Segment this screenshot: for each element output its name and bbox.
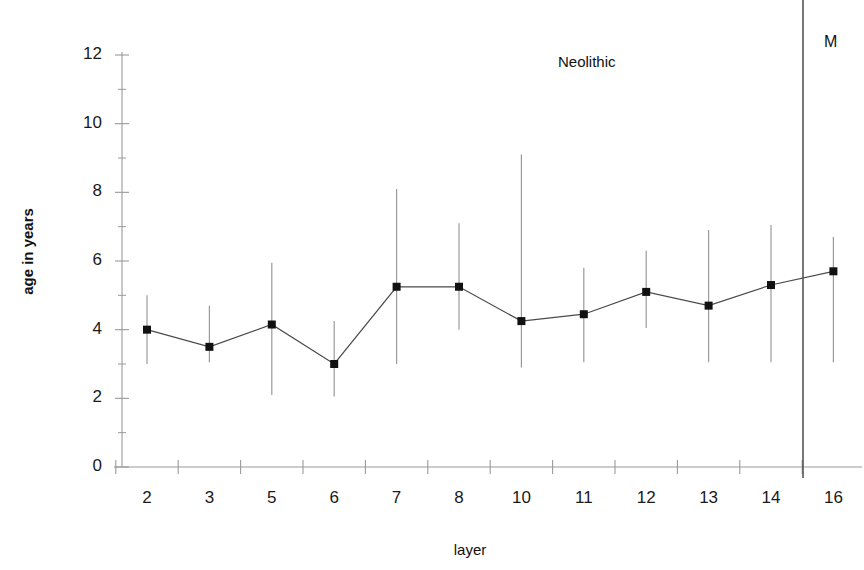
error-bars	[147, 155, 833, 397]
data-point-marker	[642, 288, 650, 296]
data-point-marker	[829, 267, 837, 275]
data-point-marker	[517, 317, 525, 325]
chart-figure: age in years layer 024681012 23567810111…	[0, 0, 864, 570]
data-point-marker	[455, 283, 463, 291]
data-point-marker	[268, 321, 276, 329]
data-point-marker	[393, 283, 401, 291]
data-point-marker	[330, 360, 338, 368]
data-point-marker	[580, 310, 588, 318]
data-markers	[143, 267, 837, 368]
data-point-marker	[767, 281, 775, 289]
data-point-marker	[205, 343, 213, 351]
axis-lines	[114, 52, 864, 474]
data-point-marker	[705, 302, 713, 310]
plot-canvas	[0, 0, 864, 570]
data-point-marker	[143, 326, 151, 334]
data-series-line	[147, 271, 833, 364]
data-line	[147, 271, 833, 364]
